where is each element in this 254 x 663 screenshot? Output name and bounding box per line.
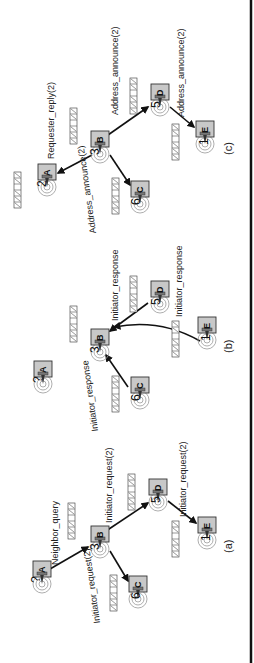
node-number: 1 [199, 534, 213, 541]
node-c-E: E [196, 121, 214, 153]
node-letter: A [37, 566, 47, 573]
node-letter: E [202, 523, 212, 529]
node-number: 5 [149, 101, 163, 108]
address-table-c-E [172, 124, 179, 160]
node-number: 2 [35, 180, 49, 187]
address-table-b-C [112, 376, 119, 412]
node-c-C: C [131, 181, 149, 213]
node-number: 6 [129, 198, 143, 205]
address-table-c-C [112, 178, 119, 214]
edge-b-E-B [114, 324, 200, 341]
caption-b: (b) [222, 340, 234, 353]
node-number: 6 [129, 394, 143, 401]
node-letter: C [133, 581, 143, 588]
caption-c: (c) [222, 142, 234, 155]
address-table-c-B [70, 108, 77, 144]
address-table-b-B [70, 306, 77, 342]
address-table-a-C [110, 575, 117, 611]
node-number: 1 [197, 138, 211, 145]
panel-a: A B C D E ? 3 6 5 1 Neighbor_query Initi… [29, 441, 234, 624]
address-table-c-D [130, 78, 137, 114]
edge-label: Address_announce(2) [76, 145, 98, 234]
address-table-c-A [14, 172, 21, 208]
node-a-B: B [91, 526, 109, 558]
node-letter: E [200, 127, 210, 133]
node-b-D: D [151, 281, 169, 313]
node-c-B: B [91, 131, 109, 163]
node-letter: E [202, 323, 212, 329]
node-a-E: E [198, 517, 216, 549]
edge-label: Address_announce(2) [176, 28, 186, 117]
node-number: ? [31, 376, 45, 383]
node-letter: C [135, 186, 145, 193]
edge-label: Initiator_response [80, 360, 100, 432]
node-number: 3 [88, 346, 102, 353]
node-a-D: D [149, 479, 167, 511]
node-number: 5 [149, 496, 163, 503]
node-number: 3 [88, 148, 102, 155]
node-letter: D [155, 89, 165, 96]
address-table-b-D [130, 276, 137, 312]
node-b-C: C [131, 377, 149, 409]
node-number: 5 [149, 298, 163, 305]
node-letter: C [135, 382, 145, 389]
panel-b: A B C D E ? 3 6 5 1 Initiator_response I… [31, 245, 234, 432]
node-number: ? [29, 576, 43, 583]
node-number: 1 [199, 334, 213, 341]
network-addressing-figure: A B C D E ? 3 6 5 1 Neighbor_query Initi… [0, 0, 254, 663]
node-number: 6 [129, 592, 143, 599]
node-b-E: E [198, 317, 216, 349]
address-table-a-B [68, 503, 75, 539]
edge-label: Initiator_response [110, 249, 120, 321]
edge-label: Address_announce(2) [110, 26, 120, 115]
edge-label: Initiator_request(2) [178, 441, 188, 517]
address-table-b-E [172, 321, 179, 357]
edge-label: Requester_reply(2) [46, 82, 56, 159]
caption-a: (a) [222, 540, 234, 553]
edge-label: Initiator_request(2) [104, 447, 114, 523]
node-letter: B [95, 531, 105, 538]
figure-canvas: A B C D E ? 3 6 5 1 Neighbor_query Initi… [0, 0, 254, 663]
node-letter: A [42, 169, 52, 176]
address-table-a-E [172, 521, 179, 557]
node-letter: A [38, 366, 48, 373]
edge-label: Initiator_request(2) [82, 548, 102, 624]
panel-c: A B C D E 2 3 6 5 1 Requester_reply(2) A… [14, 26, 234, 234]
edge-label: Neighbor_query [50, 500, 60, 565]
node-letter: D [155, 286, 165, 293]
edge-label: Initiator_response [174, 245, 184, 317]
node-letter: B [95, 334, 105, 341]
node-letter: B [95, 136, 105, 143]
address-table-a-D [128, 474, 135, 510]
node-c-D: D [151, 84, 169, 116]
node-letter: D [153, 484, 163, 491]
